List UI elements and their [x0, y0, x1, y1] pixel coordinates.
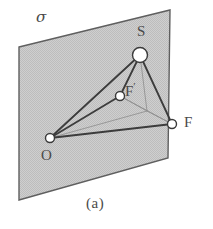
- vertex-point-fp: [116, 92, 125, 101]
- plane-sigma: [19, 10, 170, 200]
- prime-symbol: ′: [133, 80, 135, 92]
- vertex-label-s: S: [137, 24, 145, 39]
- vertex-point-f: [168, 120, 177, 129]
- geometry-diagram: [0, 0, 213, 229]
- plane-label-sigma: σ: [36, 10, 46, 25]
- vertex-label-o: O: [41, 148, 52, 163]
- vertex-label-f-prime: F′: [125, 81, 136, 99]
- vertex-label-f: F: [184, 115, 192, 130]
- figure-caption: (a): [86, 196, 104, 211]
- vertex-point-s: [133, 48, 148, 63]
- figure-container: σ S F′ F O (a): [0, 0, 213, 229]
- vertex-point-o: [46, 134, 55, 143]
